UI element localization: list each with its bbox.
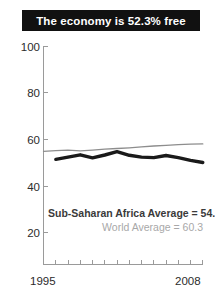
y-axis-ticks [44, 47, 48, 233]
series-line-sub-saharan-africa-average [56, 152, 203, 163]
chart-plot-area: 100 80 60 40 20 1995 2008 [0, 0, 215, 300]
y-tick-label-20: 20 [27, 227, 40, 239]
y-tick-label-60: 60 [27, 134, 40, 146]
chart-annotations: Sub-Saharan Africa Average = 54.5 World … [48, 206, 203, 234]
series-line-world-average [44, 144, 203, 151]
annotation-world-average: World Average = 60.3 [48, 220, 203, 234]
chart-figure: The economy is 52.3% free 100 80 60 40 2… [0, 0, 215, 300]
x-tick-label-end: 2008 [175, 275, 201, 287]
y-tick-label-80: 80 [27, 87, 40, 99]
x-tick-label-start: 1995 [30, 275, 56, 287]
y-tick-label-40: 40 [27, 181, 40, 193]
y-tick-label-100: 100 [21, 41, 40, 53]
x-axis-ticks [44, 260, 203, 265]
annotation-sub-saharan-africa-average: Sub-Saharan Africa Average = 54.5 [48, 206, 203, 220]
